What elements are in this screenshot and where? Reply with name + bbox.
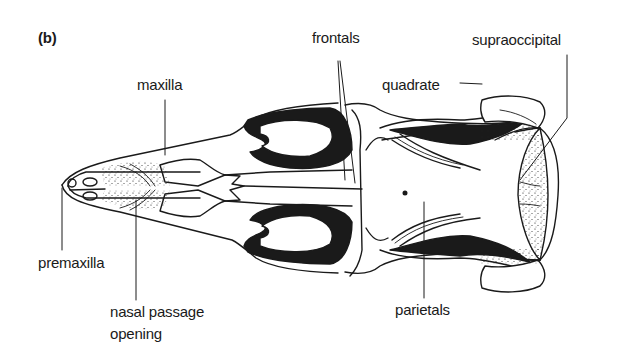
label-premaxilla: premaxilla (38, 254, 104, 271)
label-maxilla: maxilla (137, 76, 182, 93)
label-quadrate: quadrate (382, 76, 440, 93)
skull-drawing (0, 0, 618, 363)
label-parietals: parietals (395, 301, 450, 318)
label-nasal-passage-line1: nasal passage (110, 303, 204, 320)
label-frontals: frontals (312, 29, 360, 46)
panel-label: (b) (38, 29, 57, 46)
skull-diagram: (b) maxilla frontals supraoccipital quad… (0, 0, 618, 363)
label-nasal-passage-line2: opening (110, 325, 162, 342)
label-supraoccipital: supraoccipital (472, 31, 561, 48)
